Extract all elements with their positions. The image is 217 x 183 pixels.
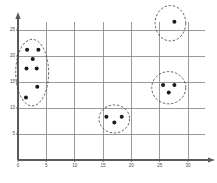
y-axis-arrow-icon	[15, 12, 20, 19]
data-point	[112, 121, 116, 125]
data-point	[24, 96, 28, 100]
x-tick-label: 5	[45, 164, 48, 169]
x-axis-arrow-icon	[208, 157, 215, 162]
cluster-outline-circle	[152, 72, 186, 104]
y-tick-label: 10	[2, 106, 15, 111]
data-point	[120, 115, 124, 119]
y-tick-label: 20	[2, 54, 15, 59]
data-point	[35, 85, 39, 89]
data-point	[36, 48, 40, 52]
data-point	[25, 48, 29, 52]
x-tick-label: 30	[185, 164, 190, 169]
x-tick-label: 25	[157, 164, 162, 169]
scatter-plot-figure: 051015202530 510152025	[0, 0, 217, 183]
data-point	[25, 66, 29, 70]
y-tick-label: 25	[2, 28, 15, 33]
data-points	[24, 20, 176, 125]
data-point	[35, 66, 39, 70]
y-tick-label: 5	[2, 132, 15, 137]
x-tick-label: 0	[17, 164, 20, 169]
data-point	[31, 57, 35, 61]
y-tick-label: 15	[2, 80, 15, 85]
data-point	[172, 20, 176, 24]
data-point	[104, 115, 108, 119]
chart-canvas	[0, 0, 217, 183]
cluster-outlines	[16, 6, 186, 133]
data-point	[167, 90, 171, 94]
axes	[15, 12, 215, 163]
x-tick-label: 10	[72, 164, 77, 169]
cluster-outline-ellipse	[16, 39, 49, 106]
data-point	[172, 83, 176, 87]
cluster-outline-circle	[99, 105, 130, 133]
x-tick-label: 20	[129, 164, 134, 169]
data-point	[161, 83, 165, 87]
x-tick-label: 15	[100, 164, 105, 169]
